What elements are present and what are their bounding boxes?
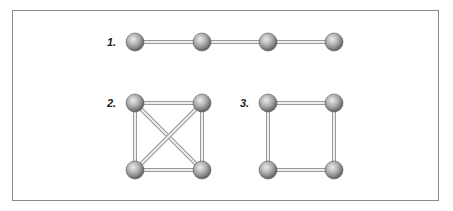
- complete-graph-k4-node: [193, 161, 211, 179]
- complete-graph-k4-label: 2.: [106, 97, 116, 109]
- path-graph-node: [126, 33, 144, 51]
- graph-diagram: 1.2.3.: [0, 0, 453, 211]
- path-graph-node: [193, 33, 211, 51]
- complete-graph-k4-node: [126, 94, 144, 112]
- cycle-graph-c4-node: [325, 94, 343, 112]
- path-graph-label: 1.: [107, 36, 116, 48]
- cycle-graph-c4-node: [259, 161, 277, 179]
- cycle-graph-c4-node: [259, 94, 277, 112]
- cycle-graph-c4-node: [325, 161, 343, 179]
- complete-graph-k4-node: [126, 161, 144, 179]
- path-graph-node: [325, 33, 343, 51]
- path-graph-node: [259, 33, 277, 51]
- cycle-graph-c4-label: 3.: [240, 97, 249, 109]
- complete-graph-k4-node: [193, 94, 211, 112]
